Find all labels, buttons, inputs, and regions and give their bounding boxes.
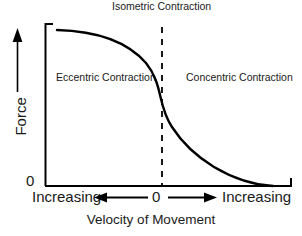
force-velocity-figure: Isometric Contraction Eccentric Contract… bbox=[0, 0, 302, 236]
plot-vector-layer bbox=[0, 0, 302, 236]
x-axis-left-arrow-icon bbox=[94, 193, 148, 203]
force-velocity-curve bbox=[57, 30, 273, 186]
x-axis-right-arrow-icon bbox=[168, 193, 217, 203]
force-up-arrow-icon bbox=[13, 28, 23, 92]
